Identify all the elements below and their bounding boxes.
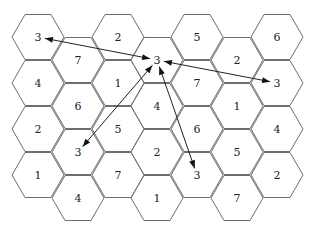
cell-label: 7	[115, 169, 122, 182]
cell-label: 2	[154, 146, 161, 159]
cell-label: 3	[194, 169, 201, 182]
hex-grid: 3421763421573421576321576342	[0, 0, 319, 233]
cell-label: 5	[115, 123, 122, 136]
cell-label: 3	[274, 77, 281, 90]
cell-label: 3	[35, 31, 42, 44]
cell-label: 7	[75, 54, 82, 67]
cell-label: 3	[154, 54, 161, 67]
cell-label: 4	[75, 192, 82, 205]
cell-label: 4	[154, 100, 161, 113]
cell-label: 2	[234, 54, 241, 67]
cell-label: 1	[35, 169, 42, 182]
cell-label: 1	[115, 77, 122, 90]
cell-label: 1	[154, 192, 161, 205]
cells-layer: 3421763421573421576321576342	[12, 15, 303, 221]
cell-label: 6	[75, 100, 82, 113]
cell-label: 6	[194, 123, 201, 136]
hex-cell-diagram: 3421763421573421576321576342	[0, 0, 319, 233]
cell-label: 3	[75, 146, 82, 159]
cell-label: 5	[234, 146, 241, 159]
cell-label: 1	[234, 100, 241, 113]
cell-label: 6	[274, 31, 281, 44]
cell-label: 2	[115, 31, 122, 44]
cell-label: 5	[194, 31, 201, 44]
cell-label: 2	[35, 123, 42, 136]
cell-label: 7	[234, 192, 241, 205]
cell-label: 4	[274, 123, 281, 136]
cell-label: 2	[274, 169, 281, 182]
cell-label: 7	[194, 77, 201, 90]
cell-label: 4	[35, 77, 42, 90]
